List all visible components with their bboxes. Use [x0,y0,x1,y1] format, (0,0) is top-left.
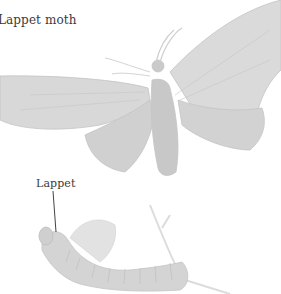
illustration [0,0,281,294]
caterpillar-illustration [39,205,230,294]
callout-line [53,191,56,232]
adult-moth-illustration [0,0,281,175]
